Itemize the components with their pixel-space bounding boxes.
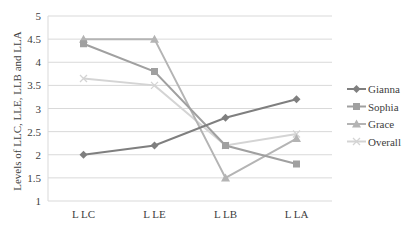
x-tick-label: L LB	[214, 208, 237, 220]
x-tick-label: L LC	[72, 208, 95, 220]
diamond-marker	[353, 85, 361, 93]
square-marker	[293, 161, 300, 168]
legend-item: Sophia	[347, 101, 399, 113]
legend-label: Gianna	[368, 83, 400, 95]
legend-label: Grace	[368, 118, 394, 130]
legend: GiannaSophiaGraceOverall	[347, 83, 401, 148]
legend-item: Gianna	[347, 83, 400, 95]
diamond-marker	[222, 114, 230, 122]
y-tick-label: 5	[36, 10, 42, 22]
y-tick-label: 2.5	[27, 126, 41, 138]
line-chart: 11.522.533.544.55 L LCL LEL LBL LA Level…	[0, 0, 414, 229]
series-line	[84, 78, 297, 145]
y-axis-ticks: 11.522.533.544.55	[27, 10, 41, 207]
y-tick-label: 1.5	[27, 172, 41, 184]
y-tick-label: 1	[36, 195, 42, 207]
diamond-marker	[293, 95, 301, 103]
legend-item: Overall	[347, 136, 401, 148]
y-tick-label: 4	[36, 56, 42, 68]
square-marker	[353, 103, 360, 110]
x-tick-label: L LA	[285, 208, 309, 220]
series-overall	[80, 75, 300, 149]
y-tick-label: 3	[36, 103, 42, 115]
legend-label: Overall	[368, 136, 401, 148]
square-marker	[151, 68, 158, 75]
series-gianna	[80, 95, 301, 159]
legend-item: Grace	[347, 118, 394, 130]
diamond-marker	[80, 151, 88, 159]
square-marker	[80, 40, 87, 47]
legend-label: Sophia	[368, 101, 399, 113]
diamond-marker	[151, 142, 159, 150]
x-tick-label: L LE	[143, 208, 166, 220]
square-marker	[222, 142, 229, 149]
series-sophia	[80, 40, 300, 167]
y-tick-label: 4.5	[27, 33, 41, 45]
y-axis-label: Levels of LLC, LLE, LLB and LLA	[11, 31, 23, 191]
x-axis-ticks: L LCL LEL LBL LA	[72, 208, 308, 220]
y-tick-label: 2	[36, 149, 42, 161]
y-tick-label: 3.5	[27, 79, 41, 91]
